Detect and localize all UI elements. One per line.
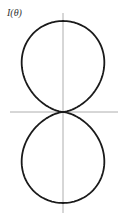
diagram-canvas [0,0,121,217]
intensity-label: I(θ) [7,7,22,18]
polar-diagram: I(θ) [0,0,121,217]
